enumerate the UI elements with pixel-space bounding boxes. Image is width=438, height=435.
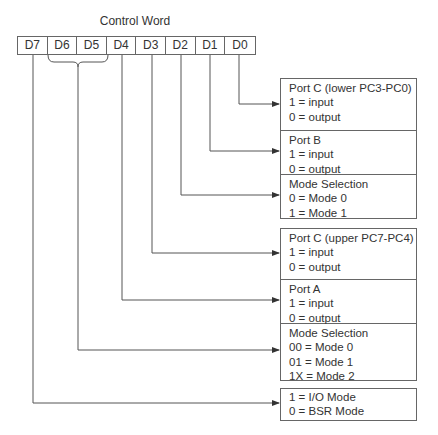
cell-line: 0 = Mode 0 [289, 191, 416, 205]
arrow-d2 [181, 55, 279, 195]
cell-heading: Mode Selection [289, 326, 416, 340]
cell-line: 1X = Mode 2 [289, 369, 416, 383]
arrow-d0 [239, 55, 279, 104]
arrow-d4 [122, 55, 279, 300]
cell-heading: Port C (upper PC7-PC4) [289, 231, 416, 245]
cell-io-bsr-mode: 1 = I/O Mode 0 = BSR Mode [281, 389, 416, 420]
cell-line: 1 = input [289, 147, 416, 161]
cell-heading: Mode Selection [289, 177, 416, 191]
cell-port-a: Port A 1 = input 0 = output [281, 279, 416, 323]
cell-line: 1 = input [289, 296, 416, 310]
cell-line: 0 = output [289, 260, 416, 274]
cell-port-c-lower: Port C (lower PC3-PC0) 1 = input 0 = out… [281, 79, 416, 130]
cell-mode-selection-b: Mode Selection 0 = Mode 0 1 = Mode 1 [281, 174, 416, 218]
arrow-d1 [210, 55, 279, 151]
group-box-upper: Port C (upper PC7-PC4) 1 = input 0 = out… [280, 228, 417, 381]
cell-port-b: Port B 1 = input 0 = output [281, 130, 416, 174]
cell-line: 1 = Mode 1 [289, 206, 416, 220]
cell-line: 0 = output [289, 110, 416, 124]
cell-line: 1 = input [289, 95, 416, 109]
cell-port-c-upper: Port C (upper PC7-PC4) 1 = input 0 = out… [281, 229, 416, 279]
cell-heading: Port A [289, 282, 416, 296]
cell-line: 00 = Mode 0 [289, 340, 416, 354]
arrow-d3 [152, 55, 279, 253]
brace-d6-d5 [48, 55, 108, 67]
cell-line: 1 = input [289, 245, 416, 259]
cell-line: 1 = I/O Mode [289, 390, 416, 404]
arrow-d6-d5 [78, 67, 279, 350]
cell-line: 01 = Mode 1 [289, 355, 416, 369]
cell-heading: Port B [289, 133, 416, 147]
arrow-d7 [33, 55, 279, 403]
cell-mode-selection-a: Mode Selection 00 = Mode 0 01 = Mode 1 1… [281, 323, 416, 380]
cell-heading: Port C (lower PC3-PC0) [289, 81, 416, 95]
group-box-lower: Port C (lower PC3-PC0) 1 = input 0 = out… [280, 78, 417, 219]
cell-line: 0 = BSR Mode [289, 404, 416, 418]
group-box-mode-flag: 1 = I/O Mode 0 = BSR Mode [280, 388, 417, 421]
